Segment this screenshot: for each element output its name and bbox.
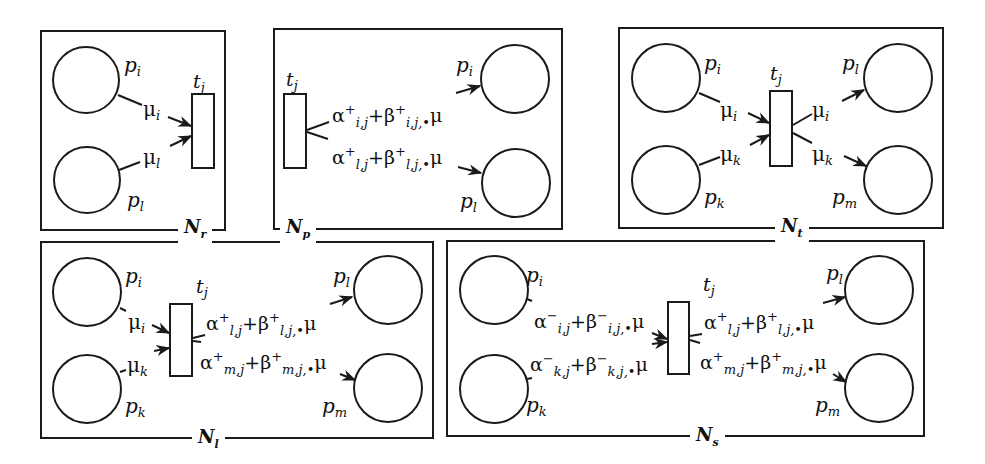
place-circle-pm xyxy=(354,354,422,422)
arc-tick xyxy=(699,93,720,102)
output-arrow xyxy=(456,86,480,93)
input-arrow xyxy=(154,348,169,351)
place-label-pi: pi xyxy=(125,264,142,290)
place-circle-pi xyxy=(53,258,121,326)
place-label-pi: pi xyxy=(124,53,141,79)
output-arrow xyxy=(330,297,352,304)
arc-weight-in-mu-k: μk xyxy=(720,142,741,168)
arc-tick xyxy=(699,157,720,165)
arc-weight-in-mu-i: μi xyxy=(720,98,737,124)
transition-label: tj xyxy=(286,68,298,93)
output-arrow xyxy=(833,374,846,382)
transition-label: tj xyxy=(770,62,782,87)
input-arrow xyxy=(748,113,769,123)
arc-weight-in-mu-i: μi xyxy=(128,310,145,336)
place-label-pl: pl xyxy=(127,188,144,214)
input-arrow xyxy=(652,342,667,344)
place-label-pk: pk xyxy=(704,185,725,211)
place-circle-pl xyxy=(482,149,550,217)
arc-weight-input-i: α−i,j+β−i,j,•μ xyxy=(534,308,644,336)
arc-tick xyxy=(793,114,812,125)
net-N-t xyxy=(632,44,932,214)
place-label-pl: pl xyxy=(826,261,843,287)
input-arrow xyxy=(652,333,667,339)
transition-label: tj xyxy=(196,275,208,300)
place-label-pk: pk xyxy=(526,393,547,419)
place-label-pm: pm xyxy=(832,185,857,211)
arc-weight-output-l: α+l,j+β+l,j,•μ xyxy=(704,309,814,337)
place-label-pm: pm xyxy=(322,394,347,420)
input-arrow xyxy=(152,325,169,333)
arc-weight-output-l: α+l,j+β+l,j,•μ xyxy=(332,144,442,172)
place-label-pm: pm xyxy=(815,393,840,419)
place-circle-pk xyxy=(632,146,700,214)
input-arrow xyxy=(168,117,191,126)
arc-tick xyxy=(118,95,142,105)
place-circle-pi xyxy=(481,45,549,113)
arc-weight-out-mu-i: μi xyxy=(812,98,829,124)
place-label-pl: pl xyxy=(842,51,859,77)
transition-bar xyxy=(284,94,306,168)
output-arrow xyxy=(844,156,866,166)
place-label-pl: pl xyxy=(460,189,477,215)
arc-tick xyxy=(690,334,702,336)
input-arrow xyxy=(170,136,191,146)
transition-bar xyxy=(770,91,792,166)
diagram-canvas: pi pl tj μi μl tj pi pl α+i,j+β+i,j,•μ α… xyxy=(0,0,985,464)
arc-tick xyxy=(527,378,532,379)
net-N-p xyxy=(284,45,550,217)
input-arrow xyxy=(750,135,769,145)
place-circle-pk xyxy=(53,355,121,423)
output-arrow xyxy=(340,374,355,380)
place-label-pi: pi xyxy=(526,263,543,289)
arc-tick xyxy=(527,299,532,301)
arc-tick xyxy=(307,122,329,130)
transition-label: tj xyxy=(193,70,205,95)
place-circle-pi xyxy=(53,47,119,113)
place-circle-pk xyxy=(460,355,528,423)
arc-weight-output-m: α+m,j+β+m,j,•μ xyxy=(200,349,327,377)
arc-tick xyxy=(120,308,126,311)
transition-bar xyxy=(170,304,192,376)
arc-weight-out-mu-k: μk xyxy=(812,142,833,168)
output-arrow xyxy=(823,297,845,303)
arc-weight-mu-l: μl xyxy=(143,145,160,171)
arc-weight-mu-i: μi xyxy=(143,97,160,123)
arc-tick xyxy=(690,340,700,343)
arc-weight-output-m: α+m,j+β+m,j,•μ xyxy=(700,349,827,377)
place-label-pk: pk xyxy=(125,394,146,420)
place-circle-pm xyxy=(845,354,913,422)
place-circle-pl xyxy=(354,256,422,324)
place-circle-pi xyxy=(632,44,700,112)
transition-bar xyxy=(192,94,214,168)
place-circle-pm xyxy=(864,146,932,214)
arc-tick xyxy=(793,133,812,143)
arc-weight-output-l: α+l,j+β+l,j,•μ xyxy=(206,310,316,338)
place-label-pl: pl xyxy=(333,264,350,290)
arc-weight-input-k: α−k,j+β−k,j,•μ xyxy=(530,351,648,379)
arc-weight-in-mu-k: μk xyxy=(127,353,148,379)
place-circle-pl xyxy=(845,256,913,324)
arc-weight-output-i: α+i,j+β+i,j,•μ xyxy=(332,102,442,130)
arc-tick xyxy=(120,370,126,372)
net-N-l xyxy=(53,256,422,423)
place-circle-pl xyxy=(864,44,932,112)
place-circle-pi xyxy=(460,256,528,324)
transition-bar xyxy=(668,302,689,374)
place-label-pi: pi xyxy=(704,51,721,77)
arc-tick xyxy=(119,162,140,170)
place-circle-pl xyxy=(54,147,120,213)
transition-label: tj xyxy=(703,273,715,298)
output-arrow xyxy=(458,167,481,173)
place-label-pi: pi xyxy=(456,53,473,79)
output-arrow xyxy=(842,90,864,101)
arc-tick xyxy=(307,132,328,139)
arc-tick xyxy=(193,335,205,338)
arc-tick xyxy=(193,341,201,342)
